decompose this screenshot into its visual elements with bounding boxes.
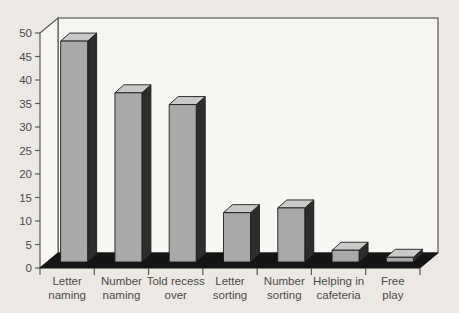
plot-left-wall [40, 18, 58, 268]
x-axis-label-line1: Helping in [313, 275, 364, 287]
bar-face [196, 97, 205, 262]
bar-letter-naming [61, 33, 97, 262]
x-axis-label-line1: Number [101, 275, 142, 287]
bar-face [305, 200, 314, 262]
x-axis-label-line2: naming [48, 289, 86, 301]
bar-face [142, 85, 151, 262]
bar-face [251, 205, 260, 262]
y-axis-tick-label: 0 [26, 262, 32, 274]
bar-face [332, 250, 359, 262]
bar-number-naming [115, 85, 151, 262]
bar-chart-svg: 05101520253035404550LetternamingNumberna… [0, 0, 459, 313]
bar-letter-sorting [224, 205, 260, 262]
y-axis-tick-label: 30 [19, 121, 32, 133]
x-axis-label-line1: Letter [52, 275, 82, 287]
y-axis-tick-label: 35 [19, 98, 32, 110]
bar-face [278, 208, 305, 262]
x-axis-label-line2: play [382, 289, 403, 301]
x-axis-label-line2: naming [103, 289, 141, 301]
x-axis-label-line1: Told recess [147, 275, 205, 287]
bar-face [169, 105, 196, 262]
x-axis-label-line1: Free [381, 275, 405, 287]
y-axis-tick-label: 5 [26, 239, 32, 251]
x-axis-label-line2: sorting [267, 289, 302, 301]
bar-face [386, 257, 413, 262]
y-axis-tick-label: 20 [19, 168, 32, 180]
y-axis-tick-label: 40 [19, 74, 32, 86]
y-axis-tick-label: 50 [19, 27, 32, 39]
bar-face [224, 213, 251, 262]
y-axis-tick-label: 45 [19, 51, 32, 63]
x-axis-label-line2: sorting [213, 289, 248, 301]
y-axis-tick-label: 10 [19, 215, 32, 227]
bar-face [61, 41, 88, 262]
bar-face [88, 33, 97, 262]
bar-told-recess-over [169, 97, 205, 262]
x-axis-label-line1: Number [264, 275, 305, 287]
bar-helping-in-cafeteria [332, 242, 368, 262]
y-axis-tick-label: 25 [19, 145, 32, 157]
bar-number-sorting [278, 200, 314, 262]
x-axis-label-line2: over [165, 289, 188, 301]
x-axis-label-line1: Letter [215, 275, 245, 287]
bar-face [115, 93, 142, 262]
y-axis-tick-label: 15 [19, 192, 32, 204]
figure: 05101520253035404550LetternamingNumberna… [0, 0, 459, 313]
x-axis-label-line2: cafeteria [317, 289, 362, 301]
